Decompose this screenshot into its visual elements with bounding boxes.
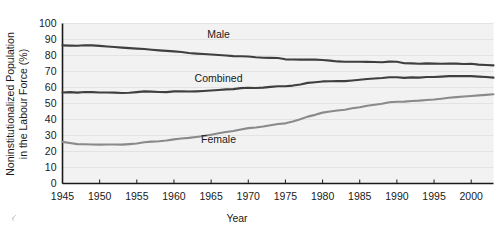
y-axis-title-line2: in the Labour Force (%)	[17, 49, 29, 159]
x-tick-label-2000: 2000	[460, 190, 484, 202]
y-tick-label-30: 30	[45, 129, 57, 141]
y-tick-label-100: 100	[39, 17, 57, 29]
y-tick-label-0: 0	[51, 177, 57, 189]
x-tick-label-1950: 1950	[88, 190, 112, 202]
y-tick-label-10: 10	[45, 161, 57, 173]
chart-figure: 0102030405060708090100 19451950195519601…	[0, 0, 501, 229]
y-tick-label-70: 70	[45, 65, 57, 77]
x-tick-label-1955: 1955	[125, 190, 149, 202]
y-axis-title-line1: Noninstitutionalized Population	[4, 32, 16, 176]
x-tick-label-1960: 1960	[162, 190, 186, 202]
x-tick-label-1980: 1980	[311, 190, 335, 202]
y-tick-label-50: 50	[45, 97, 57, 109]
y-tick-label-60: 60	[45, 81, 57, 93]
line-chart: 0102030405060708090100 19451950195519601…	[0, 0, 501, 229]
x-tick-label-1990: 1990	[385, 190, 409, 202]
series-label-female: Female	[201, 133, 236, 145]
x-tick-label-1995: 1995	[422, 190, 446, 202]
x-tick-label-1975: 1975	[274, 190, 298, 202]
x-tick-label-1945: 1945	[51, 190, 75, 202]
y-tick-label-90: 90	[45, 33, 57, 45]
x-tick-label-1965: 1965	[199, 190, 223, 202]
series-label-male: Male	[207, 28, 230, 40]
x-axis-title: Year	[226, 212, 248, 224]
y-tick-label-40: 40	[45, 113, 57, 125]
y-tick-label-20: 20	[45, 145, 57, 157]
x-tick-label-1970: 1970	[237, 190, 261, 202]
series-label-combined: Combined	[195, 72, 243, 84]
x-tick-label-1985: 1985	[348, 190, 372, 202]
y-tick-label-80: 80	[45, 49, 57, 61]
